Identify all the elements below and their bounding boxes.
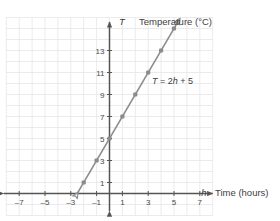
data-point [159,48,163,52]
y-tick-label: 3 [100,157,105,166]
data-point [82,180,86,184]
equation-operator: = 2 [158,76,173,86]
data-point [146,70,150,74]
line-chart: –7–5–3–11357 135791113 T Temperature (°C… [0,0,280,221]
y-axis-title: Temperature (°C) [139,16,212,27]
data-point [133,92,137,96]
equation-annotation: T = 2h + 5 [152,76,193,86]
x-tick-label: 3 [146,198,151,207]
x-tick-label: –7 [15,198,24,207]
x-tick-label: 7 [198,198,203,207]
x-tick-label: –3 [66,198,75,207]
x-axis-variable-label: h [201,187,206,198]
y-tick-label: 7 [100,113,105,122]
x-tick-label: 5 [172,198,177,207]
x-tick-label: –1 [92,198,101,207]
x-axis-title: Time (hours) [215,187,269,198]
chart-container: –7–5–3–11357 135791113 T Temperature (°C… [0,0,280,221]
x-tick-label: 1 [120,198,125,207]
y-tick-label: 13 [96,47,105,56]
data-point [107,136,111,140]
y-tick-label: 9 [100,91,105,100]
equation-rhs: + 5 [178,76,193,86]
y-tick-label: 1 [100,179,105,188]
y-tick-label: 11 [96,69,105,78]
x-tick-label: –5 [41,198,50,207]
y-tick-label: 5 [100,135,105,144]
data-point [95,158,99,162]
data-point [172,26,176,30]
data-point [120,114,124,118]
